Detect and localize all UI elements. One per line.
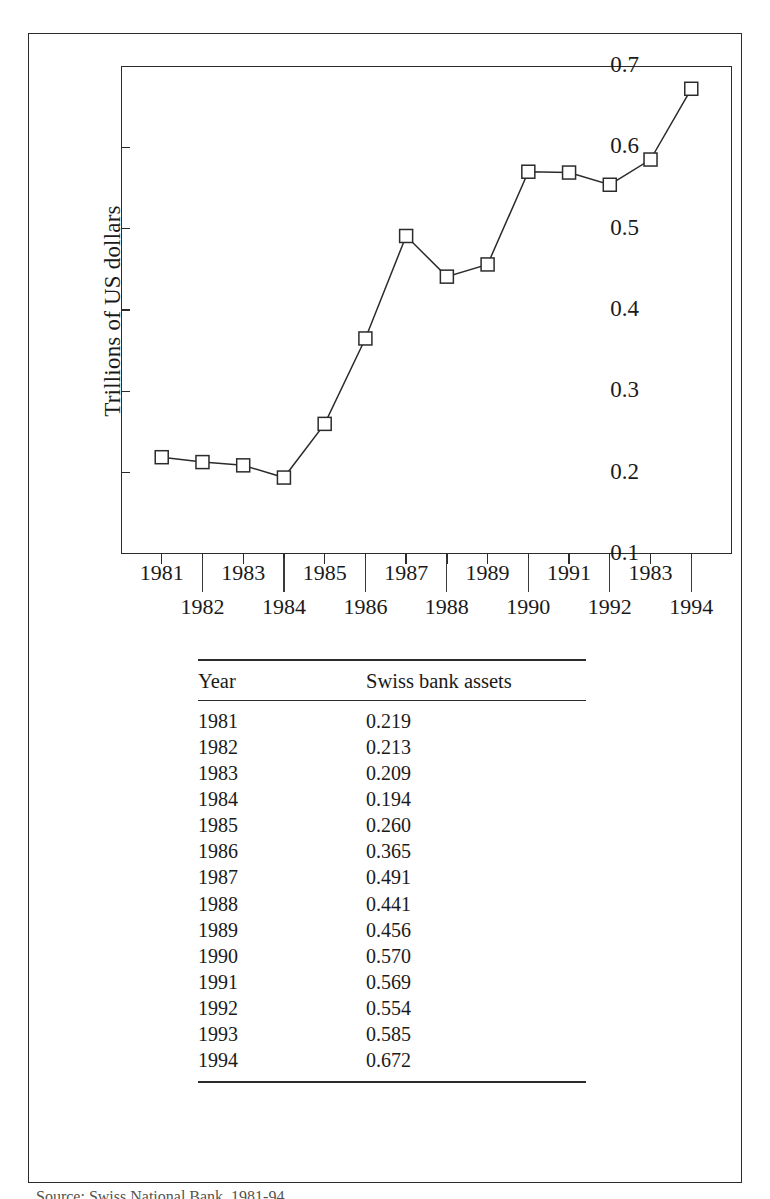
table-cell-year: 1987 xyxy=(198,864,366,890)
table-cell-year: 1982 xyxy=(198,734,366,760)
table-cell-year: 1986 xyxy=(198,838,366,864)
data-point-marker xyxy=(400,229,413,242)
table-cell-year: 1988 xyxy=(198,891,366,917)
data-point-marker xyxy=(359,332,372,345)
x-label-divider xyxy=(691,558,692,592)
x-label-divider xyxy=(528,558,529,592)
table-cell-assets: 0.219 xyxy=(366,708,411,734)
column-header-assets: Swiss bank assets xyxy=(366,670,512,693)
table-body: 19810.21919820.21319830.20919840.1941985… xyxy=(198,701,586,1081)
table-cell-assets: 0.213 xyxy=(366,734,411,760)
table-cell-assets: 0.194 xyxy=(366,786,411,812)
y-axis-tick-label: 0.3 xyxy=(569,378,639,401)
table-row: 19930.585 xyxy=(198,1021,586,1047)
table-row: 19940.672 xyxy=(198,1047,586,1073)
table-row: 19880.441 xyxy=(198,891,586,917)
table-cell-year: 1994 xyxy=(198,1047,366,1073)
table-cell-year: 1984 xyxy=(198,786,366,812)
table-cell-year: 1993 xyxy=(198,1021,366,1047)
data-point-marker xyxy=(603,178,616,191)
x-axis-tick-label: 1988 xyxy=(409,596,485,618)
table-cell-year: 1992 xyxy=(198,995,366,1021)
table-cell-assets: 0.456 xyxy=(366,917,411,943)
y-axis-tick-label: 0.6 xyxy=(569,134,639,157)
table-row: 19810.219 xyxy=(198,708,586,734)
x-axis-tick-label: 1989 xyxy=(450,562,526,584)
table-cell-assets: 0.569 xyxy=(366,969,411,995)
x-label-divider xyxy=(609,558,610,592)
y-axis-tick xyxy=(121,228,130,229)
data-series-swiss-bank-assets xyxy=(121,66,732,554)
x-axis-tick-label: 1981 xyxy=(124,562,200,584)
table-cell-assets: 0.672 xyxy=(366,1047,411,1073)
x-axis-tick-label: 1987 xyxy=(368,562,444,584)
x-axis-tick-label: 1983 xyxy=(613,562,689,584)
table-row: 19830.209 xyxy=(198,760,586,786)
table-bottom-rule xyxy=(198,1081,586,1082)
table-row: 19890.456 xyxy=(198,917,586,943)
y-axis-tick-label: 0.5 xyxy=(569,216,639,239)
table-cell-year: 1989 xyxy=(198,917,366,943)
x-axis-tick-label: 1992 xyxy=(572,596,648,618)
table-row: 19840.194 xyxy=(198,786,586,812)
table-cell-assets: 0.365 xyxy=(366,838,411,864)
table-cell-year: 1985 xyxy=(198,812,366,838)
table-row: 19850.260 xyxy=(198,812,586,838)
table-cell-assets: 0.441 xyxy=(366,891,411,917)
table-row: 19900.570 xyxy=(198,943,586,969)
x-axis-tick-label: 1986 xyxy=(327,596,403,618)
table-row: 19860.365 xyxy=(198,838,586,864)
table-cell-year: 1990 xyxy=(198,943,366,969)
table-cell-assets: 0.209 xyxy=(366,760,411,786)
table-header-row: Year Swiss bank assets xyxy=(198,661,586,700)
data-point-marker xyxy=(196,456,209,469)
x-axis-tick-label: 1990 xyxy=(490,596,566,618)
table-row: 19920.554 xyxy=(198,995,586,1021)
table-row: 19870.491 xyxy=(198,864,586,890)
data-point-marker xyxy=(644,153,657,166)
x-label-divider xyxy=(446,558,447,592)
line-chart: Trillions of US dollars 0.70.60.50.40.30… xyxy=(29,34,743,634)
table-cell-assets: 0.585 xyxy=(366,1021,411,1047)
table-row: 19820.213 xyxy=(198,734,586,760)
y-axis-tick xyxy=(121,472,130,473)
table-cell-assets: 0.260 xyxy=(366,812,411,838)
data-point-marker xyxy=(237,459,250,472)
y-axis-tick-label: 0.7 xyxy=(569,53,639,76)
y-axis-tick xyxy=(121,309,130,310)
x-label-divider xyxy=(283,558,284,592)
data-point-marker xyxy=(685,82,698,95)
data-point-marker xyxy=(318,417,331,430)
data-point-marker xyxy=(277,471,290,484)
y-axis-tick-label: 0.2 xyxy=(569,460,639,483)
x-axis-tick-label: 1991 xyxy=(531,562,607,584)
x-axis-tick-label: 1985 xyxy=(287,562,363,584)
table-cell-year: 1983 xyxy=(198,760,366,786)
figure-caption: Source: Swiss National Bank, 1981-94 xyxy=(36,1188,736,1199)
column-header-year: Year xyxy=(198,670,366,693)
data-point-marker xyxy=(563,166,576,179)
table-cell-year: 1981 xyxy=(198,708,366,734)
data-point-marker xyxy=(481,258,494,271)
y-axis-tick-label: 0.4 xyxy=(569,297,639,320)
table-cell-assets: 0.491 xyxy=(366,864,411,890)
table-cell-year: 1991 xyxy=(198,969,366,995)
data-point-marker xyxy=(440,270,453,283)
figure-frame: Trillions of US dollars 0.70.60.50.40.30… xyxy=(28,33,742,1183)
y-axis-tick xyxy=(121,391,130,392)
table-row: 19910.569 xyxy=(198,969,586,995)
table-cell-assets: 0.554 xyxy=(366,995,411,1021)
data-table: Year Swiss bank assets 19810.21919820.21… xyxy=(198,659,586,1083)
data-point-marker xyxy=(155,451,168,464)
table-cell-assets: 0.570 xyxy=(366,943,411,969)
x-axis-tick-label: 1982 xyxy=(164,596,240,618)
x-axis-tick-label: 1983 xyxy=(205,562,281,584)
x-axis-tick-label: 1994 xyxy=(653,596,729,618)
x-axis-tick-label: 1984 xyxy=(246,596,322,618)
plot-area xyxy=(121,66,732,554)
data-point-marker xyxy=(522,165,535,178)
y-axis-tick xyxy=(121,147,130,148)
x-label-divider xyxy=(202,558,203,592)
x-label-divider xyxy=(365,558,366,592)
